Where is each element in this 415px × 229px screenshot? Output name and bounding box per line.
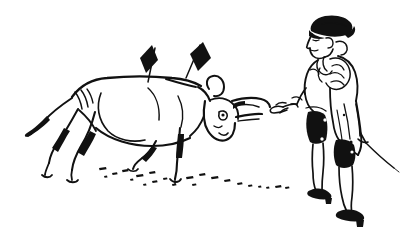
shoe-front-heel xyxy=(325,198,332,204)
ground-dash xyxy=(258,186,262,188)
matador-eye xyxy=(313,40,319,41)
illustration-canvas: A bull carrying two banderillas walks to… xyxy=(0,0,415,229)
breeches-back-leg xyxy=(334,139,356,168)
ground-dash xyxy=(266,187,270,189)
breeches-front-leg xyxy=(306,111,327,144)
bull-eye-pupil xyxy=(221,113,224,116)
ground-dash xyxy=(130,179,134,181)
breeches-knee-button-front xyxy=(320,137,323,140)
jacket-button-2 xyxy=(343,114,345,116)
breeches-button-front xyxy=(323,118,326,121)
shoe-back-heel xyxy=(356,220,364,227)
breeches-button-back xyxy=(350,150,353,153)
ground-dash xyxy=(143,184,147,186)
ground-dash xyxy=(104,176,108,178)
bullfight-drawing xyxy=(0,0,415,229)
bull-hind-cannon-near xyxy=(71,170,72,180)
